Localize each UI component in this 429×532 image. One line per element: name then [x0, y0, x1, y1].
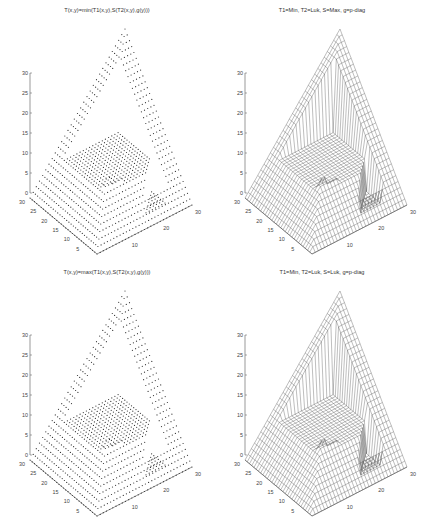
svg-text:20: 20 [237, 110, 243, 116]
svg-text:30: 30 [195, 209, 201, 215]
svg-text:15: 15 [22, 392, 28, 398]
svg-text:10: 10 [347, 242, 353, 248]
svg-text:30: 30 [19, 199, 25, 205]
svg-text:30: 30 [195, 471, 201, 477]
svg-text:25: 25 [237, 90, 243, 96]
surface-plot: 05101520253051015202530102030 [0, 0, 214, 262]
svg-text:10: 10 [237, 150, 243, 156]
svg-text:15: 15 [237, 130, 243, 136]
svg-text:20: 20 [41, 480, 47, 486]
svg-text:25: 25 [245, 208, 251, 214]
svg-text:25: 25 [22, 352, 28, 358]
surface-plot: 05101520253051015202530102030 [0, 262, 214, 524]
svg-text:30: 30 [19, 461, 25, 467]
svg-text:0: 0 [240, 190, 243, 196]
svg-text:15: 15 [237, 392, 243, 398]
svg-text:30: 30 [237, 70, 243, 76]
svg-text:0: 0 [25, 452, 28, 458]
svg-text:30: 30 [410, 471, 416, 477]
svg-text:15: 15 [268, 227, 274, 233]
svg-text:25: 25 [237, 352, 243, 358]
svg-text:20: 20 [378, 225, 384, 231]
svg-text:5: 5 [240, 170, 243, 176]
svg-text:10: 10 [279, 498, 285, 504]
svg-text:5: 5 [25, 432, 28, 438]
svg-text:10: 10 [64, 236, 70, 242]
svg-text:10: 10 [64, 498, 70, 504]
svg-text:10: 10 [279, 236, 285, 242]
surface-plot: 05101520253051015202530102030 [215, 262, 429, 524]
svg-text:0: 0 [25, 190, 28, 196]
svg-text:20: 20 [163, 487, 169, 493]
svg-text:10: 10 [22, 412, 28, 418]
svg-text:5: 5 [291, 246, 294, 252]
svg-text:20: 20 [256, 480, 262, 486]
plot-bottom-right: T1=Min, T2=Luk, S=Luk, g=p-diag 05101520… [215, 262, 429, 524]
svg-text:20: 20 [237, 372, 243, 378]
svg-text:5: 5 [25, 170, 28, 176]
svg-text:10: 10 [347, 504, 353, 510]
plot-top-left: T(x,y)=min(T1(x,y),S(T2(x,y),g(y))) 0510… [0, 0, 214, 262]
svg-text:15: 15 [268, 489, 274, 495]
svg-text:20: 20 [22, 110, 28, 116]
svg-text:10: 10 [237, 412, 243, 418]
svg-text:30: 30 [234, 461, 240, 467]
plot-top-right: T1=Min, T2=Luk, S=Max, g=p-diag 05101520… [215, 0, 429, 262]
svg-text:15: 15 [53, 227, 59, 233]
svg-text:10: 10 [132, 504, 138, 510]
svg-text:20: 20 [41, 218, 47, 224]
svg-text:20: 20 [163, 225, 169, 231]
svg-text:25: 25 [30, 470, 36, 476]
svg-text:30: 30 [237, 332, 243, 338]
svg-text:30: 30 [410, 209, 416, 215]
plot-bottom-left: T(x,y)=max(T1(x,y),S(T2(x,y),g(y))) 0510… [0, 262, 214, 524]
svg-text:10: 10 [22, 150, 28, 156]
svg-text:15: 15 [53, 489, 59, 495]
svg-text:30: 30 [22, 332, 28, 338]
svg-text:5: 5 [291, 508, 294, 514]
svg-text:15: 15 [22, 130, 28, 136]
svg-text:25: 25 [30, 208, 36, 214]
svg-text:20: 20 [378, 487, 384, 493]
svg-text:5: 5 [76, 508, 79, 514]
svg-text:5: 5 [76, 246, 79, 252]
surface-plot: 05101520253051015202530102030 [215, 0, 429, 262]
svg-text:25: 25 [22, 90, 28, 96]
svg-text:5: 5 [240, 432, 243, 438]
svg-text:30: 30 [234, 199, 240, 205]
svg-text:30: 30 [22, 70, 28, 76]
svg-text:10: 10 [132, 242, 138, 248]
svg-text:20: 20 [22, 372, 28, 378]
svg-text:25: 25 [245, 470, 251, 476]
svg-text:20: 20 [256, 218, 262, 224]
svg-text:0: 0 [240, 452, 243, 458]
